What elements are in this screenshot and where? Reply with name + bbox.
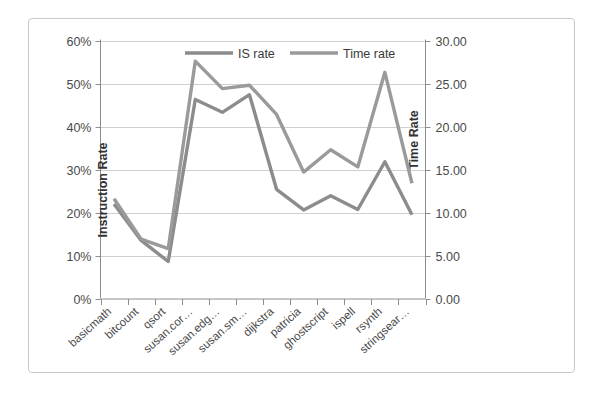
legend: IS rateTime rate <box>185 47 395 61</box>
series-line-is-rate <box>114 95 412 262</box>
y-axis-left-tick-label: 0% <box>73 293 91 307</box>
y-axis-right-tick-label: 20.00 <box>436 121 467 135</box>
y-axis-right-tick-label: 0.00 <box>436 293 460 307</box>
line-chart-svg: Instruction RateTime Rate0%10%20%30%40%5… <box>0 0 603 393</box>
y-axis-right-tick-label: 15.00 <box>436 164 467 178</box>
y-axis-left-tick-label: 30% <box>66 164 91 178</box>
y-axis-left-tick-label: 20% <box>66 207 91 221</box>
chart-plot-area: Instruction RateTime Rate0%10%20%30%40%5… <box>0 0 603 393</box>
y-axis-left-tick-label: 50% <box>66 78 91 92</box>
series-line-time-rate <box>114 61 412 248</box>
y-axis-right-title: Time Rate <box>407 110 421 170</box>
y-axis-right-tick-label: 10.00 <box>436 207 467 221</box>
legend-label-is-rate: IS rate <box>238 47 275 61</box>
y-axis-left-tick-label: 60% <box>66 35 91 49</box>
gridlines-group <box>101 42 426 257</box>
x-axis-category-labels: basicmathbitcountqsortsusan.cor…susan.ed… <box>66 305 411 358</box>
y-axis-right-tick-label: 5.00 <box>436 250 460 264</box>
y-axis-left-labels: 0%10%20%30%40%50%60% <box>66 35 91 307</box>
legend-label-time-rate: Time rate <box>343 47 395 61</box>
y-axis-left-tick-label: 10% <box>66 250 91 264</box>
y-axis-right-tick-label: 25.00 <box>436 78 467 92</box>
y-axis-left-title: Instruction Rate <box>96 142 110 237</box>
y-axis-right-tick-label: 30.00 <box>436 35 467 49</box>
y-axis-right-labels: 0.005.0010.0015.0020.0025.0030.00 <box>436 35 467 307</box>
y-axis-left-tick-label: 40% <box>66 121 91 135</box>
series-group <box>114 61 412 261</box>
x-axis-category-label: basicmath <box>66 305 113 349</box>
